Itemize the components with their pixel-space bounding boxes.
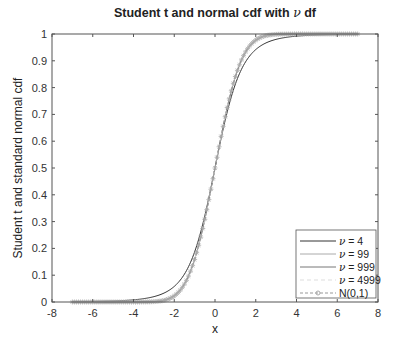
legend-label: ν = 4999 xyxy=(339,274,381,286)
x-axis-label: x xyxy=(212,322,218,336)
star-marker xyxy=(210,176,215,181)
legend: ν = 4ν = 99ν = 999ν = 4999N(0,1) xyxy=(296,230,381,299)
star-marker xyxy=(198,235,203,240)
star-marker xyxy=(190,263,195,268)
star-marker xyxy=(217,144,222,149)
legend-label: ν = 99 xyxy=(339,248,369,260)
y-tick-label: 0.8 xyxy=(32,82,47,94)
chart-title: Student t and normal cdf with ν df xyxy=(114,5,317,20)
star-marker xyxy=(194,250,199,255)
star-marker xyxy=(200,226,205,231)
star-marker xyxy=(225,105,230,110)
star-marker xyxy=(239,57,244,62)
star-marker xyxy=(219,134,224,139)
x-tick-label: 2 xyxy=(253,307,259,319)
x-tick-label: 0 xyxy=(212,307,218,319)
y-tick-label: 0.5 xyxy=(32,162,47,174)
star-marker xyxy=(196,243,201,248)
star-marker xyxy=(188,269,193,274)
star-marker xyxy=(215,155,220,160)
star-marker xyxy=(208,187,213,192)
star-marker xyxy=(235,68,240,73)
star-marker xyxy=(231,81,236,86)
x-tick-label: -8 xyxy=(47,307,57,319)
star-marker xyxy=(184,278,189,283)
y-tick-label: 0.1 xyxy=(32,269,47,281)
star-marker xyxy=(213,166,218,171)
y-tick-label: 0.3 xyxy=(32,216,47,228)
x-tick-label: -6 xyxy=(88,307,98,319)
y-tick-label: 0.2 xyxy=(32,242,47,254)
star-marker xyxy=(221,124,226,129)
y-tick-label: 0 xyxy=(41,296,47,308)
y-axis-label: Student t and standard normal cdf xyxy=(11,77,25,258)
star-marker xyxy=(204,207,209,212)
chart-figure: Student t and normal cdf with ν df -8-6-… xyxy=(0,0,398,350)
x-tick-label: -4 xyxy=(129,307,139,319)
star-marker xyxy=(206,197,211,202)
legend-label: ν = 4 xyxy=(339,235,363,247)
x-tick-label: 4 xyxy=(293,307,299,319)
x-tick-label: -2 xyxy=(169,307,179,319)
star-marker xyxy=(237,62,242,67)
star-marker xyxy=(223,114,228,119)
star-marker xyxy=(229,88,234,93)
x-tick-label: 8 xyxy=(375,307,381,319)
x-tick-label: 6 xyxy=(334,307,340,319)
star-marker xyxy=(233,74,238,79)
legend-label: ν = 999 xyxy=(339,261,375,273)
y-tick-label: 1 xyxy=(41,28,47,40)
y-tick-label: 0.7 xyxy=(32,108,47,120)
y-tick-label: 0.4 xyxy=(32,189,47,201)
y-tick-label: 0.6 xyxy=(32,135,47,147)
star-marker xyxy=(227,96,232,101)
y-tick-label: 0.9 xyxy=(32,55,47,67)
star-marker xyxy=(192,257,197,262)
star-marker xyxy=(202,217,207,222)
star-marker xyxy=(186,274,191,279)
legend-label: N(0,1) xyxy=(339,287,368,299)
